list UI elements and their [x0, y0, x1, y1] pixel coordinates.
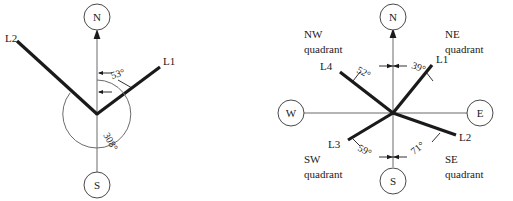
quadrant-label-NE: NE quadrant — [445, 28, 483, 55]
angle-label-52: 52° — [355, 64, 373, 80]
cardinal-north-label: N — [389, 11, 397, 23]
line-label-L4: L4 — [320, 60, 333, 72]
quadrant-NW-line1: NW — [304, 28, 323, 40]
ray-L1 — [97, 67, 160, 114]
cardinal-north-label: N — [93, 11, 101, 23]
quadrant-SW-line1: SW — [304, 153, 321, 165]
quadrant-NE-line2: quadrant — [445, 43, 483, 55]
cardinal-south-label: S — [390, 175, 396, 187]
ray-L3 — [348, 113, 393, 140]
angle-label-71: 71° — [408, 139, 426, 156]
cardinal-north: N — [84, 4, 110, 30]
angle-label-308: 308° — [101, 131, 120, 153]
cardinal-south-label: S — [94, 179, 100, 191]
angle-label-53: 53° — [110, 66, 126, 80]
line-label-L3: L3 — [328, 138, 341, 150]
cardinal-east: E — [467, 100, 493, 126]
cardinal-west: W — [278, 100, 304, 126]
cardinal-north: N — [380, 4, 406, 30]
ray-L2 — [393, 113, 456, 135]
quadrant-label-NW: NW quadrant — [304, 28, 342, 55]
quadrant-SE-line2: quadrant — [445, 168, 483, 180]
angle-leader-L1 — [426, 72, 433, 81]
cardinal-east-label: E — [477, 107, 484, 119]
quadrant-label-SW: SW quadrant — [304, 153, 342, 180]
quadrant-NE-line1: NE — [445, 28, 460, 40]
quadrant-NW-line2: quadrant — [304, 43, 342, 55]
azimuth-diagram-panel: L2 L1 53° 308° N S — [0, 0, 256, 201]
cardinal-west-label: W — [286, 107, 297, 119]
ray-L2 — [17, 41, 97, 114]
cardinal-south: S — [84, 172, 110, 198]
quadrant-SE-line1: SE — [445, 153, 458, 165]
line-label-L2: L2 — [459, 131, 471, 143]
quadrant-SW-line2: quadrant — [304, 168, 342, 180]
line-label-L1: L1 — [163, 55, 175, 67]
line-label-L2: L2 — [5, 32, 17, 44]
quadrant-label-SE: SE quadrant — [445, 153, 483, 180]
bearing-diagram-panel: L1 L2 L3 L4 52° 39° 59° 71° NW quadrant … — [256, 0, 513, 201]
cardinal-south: S — [380, 168, 406, 194]
figure-root: L2 L1 53° 308° N S — [0, 0, 513, 201]
